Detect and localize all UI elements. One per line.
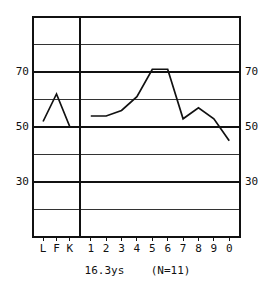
x-axis-label-K: K	[63, 243, 77, 254]
y-axis-label-left-50: 50	[3, 121, 29, 132]
x-axis-label-0: 0	[222, 243, 236, 254]
x-axis-label-6: 6	[161, 243, 175, 254]
mmpi-profile-chart: 70 50 30 70 50 30 LFK1234567890 16.3ys (…	[0, 0, 275, 293]
x-axis-label-1: 1	[84, 243, 98, 254]
x-axis-label-L: L	[36, 243, 50, 254]
x-axis-label-7: 7	[176, 243, 190, 254]
y-axis-label-right-30: 30	[245, 176, 271, 187]
y-axis-label-left-30: 30	[3, 176, 29, 187]
x-axis-label-F: F	[50, 243, 64, 254]
y-axis-label-right-70: 70	[245, 66, 271, 77]
chart-caption: 16.3ys (N=11)	[0, 264, 275, 277]
x-axis-label-2: 2	[99, 243, 113, 254]
x-axis-label-3: 3	[115, 243, 129, 254]
y-axis-label-left-70: 70	[3, 66, 29, 77]
y-axis-label-right-50: 50	[245, 121, 271, 132]
x-axis-label-5: 5	[145, 243, 159, 254]
x-axis-label-4: 4	[130, 243, 144, 254]
x-axis-label-8: 8	[191, 243, 205, 254]
x-axis-label-9: 9	[207, 243, 221, 254]
